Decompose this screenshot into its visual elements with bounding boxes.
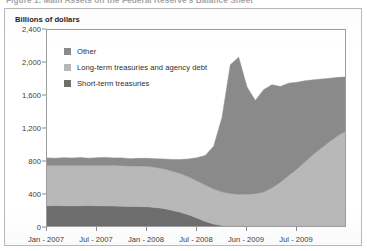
legend-label-other: Other [77,47,96,56]
y-axis-tick-label: 800 [28,157,41,166]
y-axis-tick-label: 2,400 [22,25,41,34]
chart-legend: Other Long-term treasuries and agency de… [64,43,207,91]
x-axis-tick-label: Jan - 2008 [128,235,164,244]
x-axis-tick-mark [146,227,147,231]
x-axis-tick-mark [246,227,247,231]
y-axis: 04008001,2001,6002,0002,400 [5,9,46,249]
legend-item-short-term-treasuries[interactable]: Short-term treasuries [64,75,207,91]
y-axis-tick-label: 1,600 [22,91,41,100]
y-axis-tick-label: 400 [28,190,41,199]
x-axis-tick-mark [46,227,47,231]
x-axis-tick-mark [296,227,297,231]
legend-swatch-short-term-treasuries [64,80,71,87]
legend-item-other[interactable]: Other [64,43,207,59]
x-axis-tick-mark [196,227,197,231]
x-axis-tick-label: Jul - 2007 [79,235,112,244]
figure-panel: Billions of dollars 04008001,2001,6002,0… [4,8,362,246]
y-axis-tick-label: 2,000 [22,58,41,67]
x-axis-tick-label: Jan - 2007 [28,235,64,244]
legend-swatch-long-term-treasuries [64,64,71,71]
x-axis-tick-mark [96,227,97,231]
legend-label-short-term-treasuries: Short-term treasuries [77,79,149,88]
figure-container: Figure 1. Main Assets on the Federal Res… [0,0,367,251]
x-axis-tick-label: Jul - 2008 [179,235,212,244]
legend-item-long-term-treasuries[interactable]: Long-term treasuries and agency debt [64,59,207,75]
x-axis-tick-label: Jun - 2009 [228,235,264,244]
x-axis-tick-label: Jul - 2009 [279,235,312,244]
figure-caption: Figure 1. Main Assets on the Federal Res… [6,0,358,7]
y-axis-tick-label: 0 [37,223,41,232]
legend-label-long-term-treasuries: Long-term treasuries and agency debt [77,63,207,72]
legend-swatch-other [64,48,71,55]
y-axis-tick-label: 1,200 [22,124,41,133]
